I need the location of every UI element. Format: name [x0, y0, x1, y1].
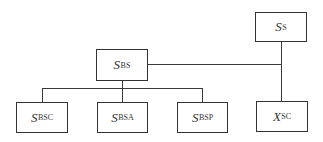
edge-to-sbsc: [42, 88, 43, 102]
node-sbs-subscript: BS: [121, 61, 131, 70]
node-ss-subscript: S: [282, 23, 286, 32]
node-ss-symbol: S: [275, 19, 282, 35]
node-xsc-subscript: SC: [281, 112, 291, 121]
node-xsc: XSC: [256, 101, 308, 132]
node-sbsa: SBSA: [97, 102, 148, 133]
edge-ss-vertical: [281, 41, 282, 102]
node-sbs: SBS: [96, 49, 148, 81]
edge-sbs-down: [122, 80, 123, 102]
node-sbsc-symbol: S: [31, 110, 38, 126]
node-sbsp-symbol: S: [192, 110, 199, 126]
node-sbsa-subscript: BSA: [118, 113, 134, 122]
node-sbsp: SBSP: [177, 102, 228, 133]
node-sbs-symbol: S: [114, 57, 121, 73]
edge-to-sbsp: [202, 88, 203, 102]
edge-children-bus: [42, 88, 203, 89]
node-sbsc-subscript: BSC: [38, 113, 53, 122]
edge-sbs-to-ss: [147, 64, 282, 65]
node-sbsc: SBSC: [16, 102, 68, 133]
node-xsc-symbol: X: [273, 109, 281, 125]
node-sbsa-symbol: S: [111, 110, 118, 126]
node-sbsp-subscript: BSP: [199, 113, 213, 122]
node-ss: SS: [255, 12, 307, 42]
